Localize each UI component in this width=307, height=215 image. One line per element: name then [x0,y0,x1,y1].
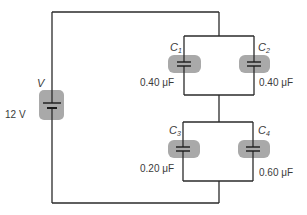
c2-name-label: C2 [258,41,270,54]
c4-name-label: C4 [258,124,270,137]
c1-name-label: C1 [170,41,182,54]
wires [52,12,254,203]
capacitor-c1: C1 0.40 μF [140,41,201,88]
c1-value-label: 0.40 μF [140,77,174,88]
battery-name-label: V [37,77,46,89]
c2-value-label: 0.40 μF [259,77,293,88]
c3-name-label: C3 [169,124,181,137]
battery-source: V 12 V [5,77,64,120]
capacitor-c2: C2 0.40 μF [239,41,293,88]
capacitor-c4: C4 0.60 μF [238,124,293,178]
capacitor-c3: C3 0.20 μF [140,124,200,174]
c3-value-label: 0.20 μF [140,163,174,174]
circuit-diagram: V 12 V C1 0.40 μF C2 0.40 μF C3 0.20 μF [0,0,307,215]
battery-voltage-label: 12 V [5,109,26,120]
c4-value-label: 0.60 μF [259,167,293,178]
